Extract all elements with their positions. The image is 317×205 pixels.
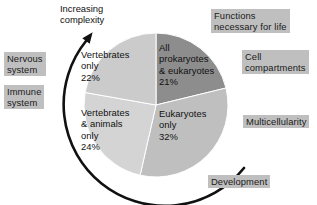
callout-multicellularity: Multicellularity (243, 115, 309, 128)
callout-functions-for-life: Functions necessary for life (211, 9, 290, 33)
callout-nervous-system: Nervous system (4, 52, 46, 76)
slice-label: Vertebrates & animals only 24% (81, 107, 130, 153)
increasing-complexity-note: Increasing complexity (60, 3, 104, 26)
slice-label: Eukaryotes only 32% (159, 108, 206, 142)
callout-immune-system: Immune system (4, 85, 44, 109)
callout-development: Development (208, 175, 270, 188)
callout-cell-compartments: Cell compartments (242, 50, 309, 74)
slice-label: Vertebrates only 22% (81, 49, 130, 83)
figure-canvas: Increasing complexity All prokaryotes & … (0, 0, 317, 205)
slice-label: All prokaryotes & eukaryotes 21% (159, 42, 214, 88)
